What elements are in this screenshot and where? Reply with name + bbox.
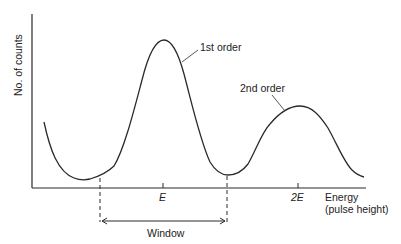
label-1st-order: 1st order — [200, 41, 241, 53]
tick-label-E: E — [159, 191, 166, 203]
leader-2nd-order — [272, 95, 285, 111]
tick-label-2E: 2E — [291, 191, 304, 203]
x-axis-label-line2: (pulse height) — [325, 203, 389, 215]
spectrum-curve — [44, 40, 364, 180]
label-window: Window — [147, 227, 184, 239]
leader-1st-order — [182, 50, 198, 62]
x-axis-label-line1: Energy — [325, 191, 358, 203]
label-2nd-order: 2nd order — [240, 82, 285, 94]
y-axis-label: No. of counts — [12, 34, 24, 96]
